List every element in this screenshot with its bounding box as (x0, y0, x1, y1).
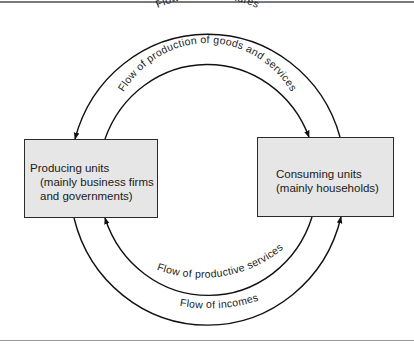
flow-productive-services-arc (105, 217, 312, 295)
flow-productive-services-label: Flow of productive services (156, 240, 285, 279)
producing-units-title: Producing units (30, 161, 109, 175)
producing-units-box: Producing units (mainly business firms a… (24, 139, 158, 218)
consuming-units-title: Consuming units (276, 167, 362, 181)
producing-units-subtitle: (mainly business firms and governments) (40, 175, 160, 203)
flow-production-label: Flow of production of goods and services (115, 33, 300, 93)
flow-expenditures-label: Flow of expenditures (154, 0, 262, 10)
bottom-rule (0, 340, 414, 341)
consuming-units-subtitle: (mainly households) (276, 181, 379, 195)
consuming-units-box: Consuming units (mainly households) (257, 137, 394, 217)
flow-expenditures-arc (75, 34, 340, 139)
